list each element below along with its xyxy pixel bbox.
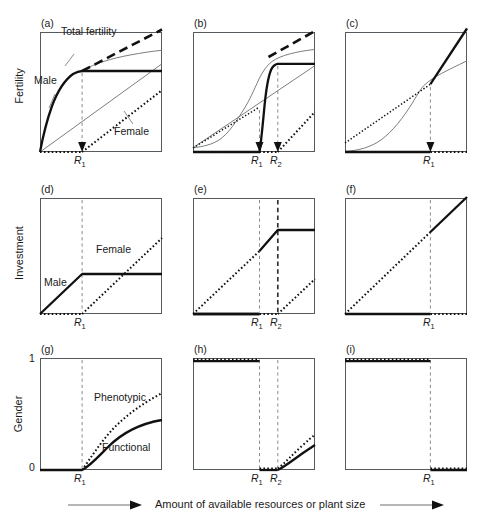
panel-f: R1 xyxy=(345,198,467,314)
xaxis-arrow-right-head xyxy=(432,501,444,510)
panel-f-plot xyxy=(345,198,467,314)
panel-e-frame xyxy=(194,199,315,314)
series-male-gain-unconstrained xyxy=(82,50,162,71)
annotation-phenotypic: Phenotypic xyxy=(94,391,146,403)
annotation-functional: Functional xyxy=(102,441,150,453)
panel-h-plot xyxy=(193,358,315,470)
leader-total-fertility xyxy=(65,54,74,66)
threshold-label-g-r1: R1 xyxy=(74,472,86,487)
series-male xyxy=(40,71,162,152)
threshold-label-e-r1: R1 xyxy=(251,316,263,331)
series-female xyxy=(278,279,315,314)
annotation-total-fertility: Total fertility xyxy=(61,25,116,37)
yaxis-title-investment: Investment xyxy=(13,218,25,288)
series-female-gain-linear xyxy=(193,66,315,148)
series-male-rise xyxy=(430,197,467,232)
threshold-label-i-r1: R1 xyxy=(423,472,435,487)
panel-label-d: (d) xyxy=(41,183,54,195)
panel-g-plot xyxy=(40,358,162,470)
panel-b: R1 R2 xyxy=(193,32,315,152)
series-phenotypic xyxy=(82,393,162,470)
threshold-label-h-r1: R1 xyxy=(251,472,263,487)
figure-root: Fertility Investment Gender 1 0 (a) (b) … xyxy=(0,0,490,526)
annotation-male: Male xyxy=(34,74,57,86)
series-female xyxy=(82,90,162,152)
panel-d: Female Male R1 xyxy=(40,198,162,314)
panel-a: Total fertility Male Female R1 xyxy=(40,32,162,152)
threshold-label-h-r2: R2 xyxy=(270,472,282,487)
annotation-male: Male xyxy=(44,276,67,288)
panel-label-i: (i) xyxy=(346,343,355,355)
series-female-gain-linear xyxy=(40,64,162,152)
panel-b-frame xyxy=(194,33,315,152)
threshold-arrow-r2 xyxy=(274,142,282,152)
panel-h-frame xyxy=(194,359,315,470)
panel-c-frame xyxy=(346,33,467,152)
series-phenotypic xyxy=(278,435,315,469)
threshold-arrow-r1 xyxy=(256,142,264,152)
threshold-arrow-r1 xyxy=(78,142,86,152)
gender-tick-0: 0 xyxy=(29,461,35,473)
series-male xyxy=(260,230,316,251)
threshold-label-c-r1: R1 xyxy=(423,154,435,169)
xaxis-caption: Amount of available resources or plant s… xyxy=(155,498,365,510)
series-male xyxy=(430,29,467,85)
panel-label-h: (h) xyxy=(194,343,207,355)
panel-label-g: (g) xyxy=(41,343,54,355)
threshold-label-b-r1: R1 xyxy=(251,154,263,169)
panel-h: R1 R2 xyxy=(193,358,315,470)
series-male-gain-unconstrained xyxy=(345,61,467,152)
panel-i: R1 xyxy=(345,358,467,470)
panel-i-frame xyxy=(346,359,467,470)
annotation-female: Female xyxy=(114,125,149,137)
panel-i-plot xyxy=(345,358,467,470)
yaxis-title-fertility: Fertility xyxy=(13,56,25,116)
panel-e: R1 R2 xyxy=(193,198,315,314)
series-female-rise xyxy=(193,251,260,314)
panel-label-e: (e) xyxy=(194,183,207,195)
panel-c: R1 xyxy=(345,32,467,152)
series-female-reference xyxy=(193,107,260,148)
panel-d-plot xyxy=(40,198,162,314)
series-male xyxy=(193,64,315,152)
panel-label-a: (a) xyxy=(41,17,54,29)
panel-label-b: (b) xyxy=(194,17,207,29)
threshold-label-d-r1: R1 xyxy=(74,316,86,331)
threshold-label-e-r2: R2 xyxy=(270,316,282,331)
series-functional xyxy=(278,445,315,470)
xaxis-arrow-left-head xyxy=(130,501,142,510)
threshold-label-a-r1: R1 xyxy=(74,154,86,169)
panel-c-plot xyxy=(345,32,467,152)
threshold-label-f-r1: R1 xyxy=(423,316,435,331)
series-female xyxy=(345,232,430,314)
threshold-arrow-r1 xyxy=(426,142,434,152)
series-female xyxy=(278,112,315,152)
panel-b-plot xyxy=(193,32,315,152)
panel-e-plot xyxy=(193,198,315,314)
panel-g: Phenotypic Functional R1 xyxy=(40,358,162,470)
yaxis-title-gender: Gender xyxy=(12,384,24,444)
gender-tick-1: 1 xyxy=(29,352,35,364)
panel-label-c: (c) xyxy=(346,17,358,29)
panel-label-f: (f) xyxy=(346,183,356,195)
threshold-label-b-r2: R2 xyxy=(270,154,282,169)
annotation-female: Female xyxy=(96,243,131,255)
